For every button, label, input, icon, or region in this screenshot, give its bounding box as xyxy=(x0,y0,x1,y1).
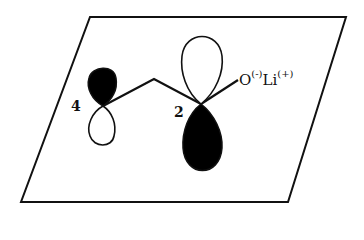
atom2-lower-lobe-filled xyxy=(183,104,222,171)
oxygen-lithium-label: O(-)Li(+) xyxy=(239,70,293,89)
lithium-symbol: Li xyxy=(263,71,278,89)
atom-4-label: 4 xyxy=(71,98,81,114)
atom4-lower-lobe-empty xyxy=(89,106,115,145)
atom-2-label: 2 xyxy=(174,104,184,120)
lithium-charge: (+) xyxy=(277,68,293,79)
oxygen-charge: (-) xyxy=(251,68,262,79)
oxygen-symbol: O xyxy=(239,71,251,89)
